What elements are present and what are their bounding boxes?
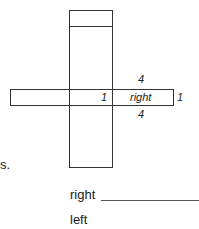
label-center-face: 1: [101, 92, 107, 103]
label-bottom-dimension: 4: [138, 109, 144, 120]
center-face-left-edge: [69, 89, 70, 106]
label-right-edge: 1: [177, 92, 183, 103]
top-face-divider: [69, 26, 113, 27]
label-right-face: right: [130, 92, 151, 103]
label-top-dimension: 4: [138, 74, 144, 85]
center-face-right-edge: [112, 89, 113, 106]
answer-right-blank[interactable]: [101, 200, 199, 201]
answer-left-label: left: [70, 213, 87, 226]
margin-text: s.: [0, 158, 10, 171]
answer-right-label: right: [70, 188, 95, 201]
